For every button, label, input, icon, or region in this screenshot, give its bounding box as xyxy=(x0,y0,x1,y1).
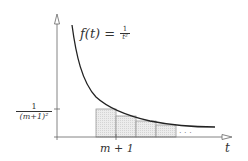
y-tick-label: 1 (m+1)² xyxy=(14,102,54,121)
rectangle-3 xyxy=(136,121,156,137)
x-axis-label: t xyxy=(225,141,230,155)
function-denominator: t² xyxy=(120,34,130,41)
y-tick-numerator: 1 xyxy=(14,102,54,111)
function-label-text: f(t) = xyxy=(80,26,115,41)
ellipsis: · · · xyxy=(179,128,192,137)
function-label: f(t) = xyxy=(80,26,115,41)
rectangle-2 xyxy=(116,116,136,137)
y-tick-denominator: (m+1)² xyxy=(14,112,54,121)
rectangle-4 xyxy=(156,125,176,137)
x-tick-label: m + 1 xyxy=(100,142,134,155)
x-axis-arrow-icon xyxy=(222,135,232,140)
rectangle-1 xyxy=(96,109,116,137)
y-axis-arrow-icon xyxy=(55,14,60,24)
function-fraction: 1 t² xyxy=(120,26,130,41)
